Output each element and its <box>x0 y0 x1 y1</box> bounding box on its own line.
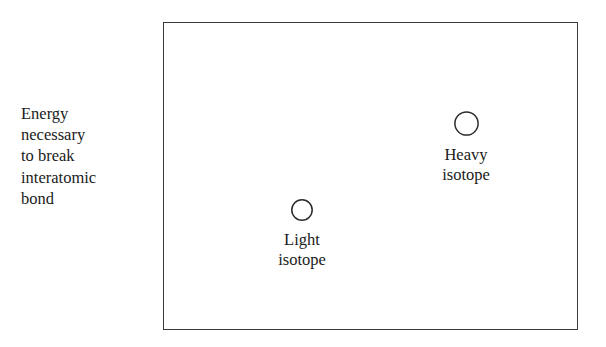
data-point-label-light-isotope: Light isotope <box>278 230 326 270</box>
data-point-light-isotope[interactable]: Light isotope <box>252 198 352 270</box>
figure-canvas: Energy necessary to break interatomic bo… <box>0 0 606 347</box>
data-point-label-heavy-isotope: Heavy isotope <box>442 145 490 185</box>
y-axis-caption: Energy necessary to break interatomic bo… <box>21 103 153 209</box>
open-circle-icon <box>290 198 314 222</box>
data-point-heavy-isotope[interactable]: Heavy isotope <box>416 110 516 185</box>
open-circle-icon <box>453 110 480 137</box>
